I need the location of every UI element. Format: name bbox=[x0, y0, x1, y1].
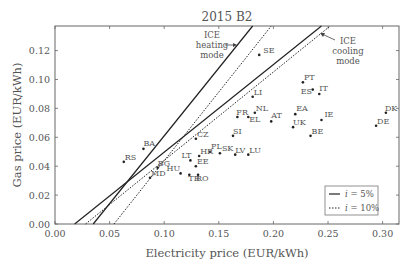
data-point: HR bbox=[198, 147, 214, 157]
annotation-heating: ICE heating mode bbox=[196, 30, 229, 60]
x-tick-labels: 0.000.050.100.150.200.250.30 bbox=[44, 228, 393, 239]
data-point: EL bbox=[247, 115, 261, 124]
data-point: UK bbox=[292, 118, 307, 128]
point-marker bbox=[270, 120, 273, 123]
data-point: RS bbox=[123, 153, 137, 163]
point-label: DE bbox=[377, 117, 389, 126]
y-tick-label: 0.06 bbox=[29, 132, 50, 143]
annotation-heating-line3: mode bbox=[200, 50, 224, 60]
annotation-heating-line1: ICE bbox=[204, 30, 220, 40]
threshold-line-solid bbox=[75, 26, 322, 224]
point-label: SK bbox=[222, 144, 234, 153]
point-label: FR bbox=[236, 108, 249, 117]
point-marker bbox=[294, 113, 297, 116]
point-marker bbox=[318, 93, 321, 96]
y-tick-labels: 0.000.020.040.060.080.100.12 bbox=[29, 45, 50, 229]
annotation-cooling-line1: ICE bbox=[340, 36, 356, 46]
data-point: FR bbox=[236, 108, 249, 118]
annotation-cooling-line2: cooling bbox=[332, 46, 364, 56]
data-point: LV bbox=[234, 146, 246, 156]
data-point: SE bbox=[258, 46, 275, 56]
data-point: NL bbox=[254, 104, 269, 114]
point-marker bbox=[320, 119, 323, 122]
threshold-line-dotted bbox=[114, 26, 271, 224]
point-marker bbox=[219, 152, 222, 155]
data-point: IT bbox=[318, 84, 328, 95]
point-label: UK bbox=[293, 118, 307, 127]
point-label: IT bbox=[319, 84, 328, 93]
data-point: AT bbox=[270, 111, 283, 122]
data-point: LT bbox=[181, 151, 192, 161]
data-point: LI bbox=[251, 88, 262, 98]
data-point: EA bbox=[294, 104, 308, 115]
point-label: LU bbox=[249, 146, 261, 155]
data-point: SI bbox=[232, 127, 242, 137]
annotation-heating-line2: heating bbox=[196, 40, 229, 50]
x-tick-label: 0.15 bbox=[208, 228, 229, 239]
y-tick-label: 0.02 bbox=[29, 190, 50, 201]
point-label: BE bbox=[312, 127, 324, 136]
data-point: SK bbox=[219, 144, 235, 154]
scatter-chart: 2015 B2 0.000.050.100.150.200.250.30 0.0… bbox=[0, 0, 415, 272]
data-point: HU bbox=[167, 164, 182, 174]
legend-dotted-label: i = 10% bbox=[345, 203, 379, 213]
x-axis-label: Electricity price (EUR/kWh) bbox=[145, 246, 308, 260]
y-axis-label: Gas price (EUR/kWh) bbox=[10, 63, 24, 188]
x-tick-label: 0.30 bbox=[372, 228, 393, 239]
point-label: SI bbox=[233, 127, 242, 136]
point-label: LV bbox=[235, 146, 245, 155]
point-label: EA bbox=[296, 104, 308, 113]
point-label: ES bbox=[301, 87, 312, 96]
point-label: DK bbox=[385, 104, 398, 113]
point-label: PT bbox=[304, 73, 315, 82]
data-point: DE bbox=[375, 117, 390, 127]
y-tick-label: 0.00 bbox=[29, 219, 50, 230]
point-label: NL bbox=[256, 104, 269, 113]
data-point: LU bbox=[247, 146, 261, 156]
point-label: AT bbox=[270, 111, 282, 120]
point-label: CZ bbox=[197, 130, 209, 139]
point-label: SE bbox=[263, 46, 274, 55]
y-tick-label: 0.10 bbox=[29, 74, 50, 85]
data-point: RO bbox=[196, 174, 209, 183]
country-points: SELIPTESITFRNLELATEAUKIEBEDKDESICZBAPLSK… bbox=[123, 46, 399, 183]
point-marker bbox=[258, 54, 261, 57]
data-point: DK bbox=[385, 104, 399, 114]
y-tick-label: 0.08 bbox=[29, 103, 50, 114]
x-tick-label: 0.25 bbox=[317, 228, 338, 239]
data-point: MD bbox=[149, 169, 166, 179]
point-label: BA bbox=[143, 139, 155, 148]
data-point: CZ bbox=[195, 130, 209, 140]
point-label: HU bbox=[167, 164, 181, 173]
point-label: LI bbox=[254, 88, 262, 97]
point-label: RS bbox=[125, 153, 137, 162]
point-label: LT bbox=[181, 151, 192, 160]
point-label: EL bbox=[249, 115, 261, 124]
annotation-cooling: ICE cooling mode bbox=[332, 36, 364, 66]
point-marker bbox=[142, 148, 145, 151]
point-label: HR bbox=[200, 147, 214, 156]
data-point: ES bbox=[301, 87, 314, 96]
threshold-line-solid bbox=[93, 26, 252, 224]
data-point: IE bbox=[320, 110, 333, 121]
point-label: RO bbox=[196, 174, 209, 183]
y-tick-label: 0.04 bbox=[29, 161, 50, 172]
x-tick-label: 0.05 bbox=[99, 228, 120, 239]
legend: i = 5% i = 10% bbox=[325, 186, 379, 215]
x-tick-label: 0.00 bbox=[44, 228, 65, 239]
legend-solid-label: i = 5% bbox=[345, 189, 374, 199]
data-point: EE bbox=[195, 157, 209, 167]
y-tick-label: 0.12 bbox=[29, 45, 50, 56]
annotation-cooling-line3: mode bbox=[336, 56, 360, 66]
point-label: IE bbox=[324, 110, 333, 119]
data-point: BE bbox=[309, 127, 323, 137]
data-point: PT bbox=[302, 73, 316, 83]
chart-title: 2015 B2 bbox=[202, 10, 253, 24]
x-tick-label: 0.20 bbox=[263, 228, 284, 239]
x-tick-label: 0.10 bbox=[154, 228, 175, 239]
point-label: EE bbox=[197, 157, 209, 166]
point-label: MD bbox=[151, 169, 166, 178]
